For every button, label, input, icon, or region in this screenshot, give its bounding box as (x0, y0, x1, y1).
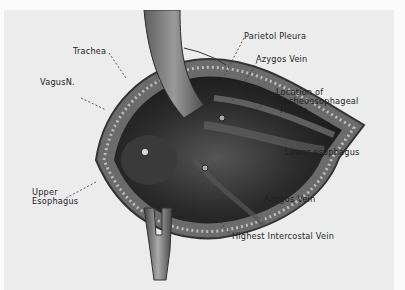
label-parietal-pleura: Parietol Pleura (244, 32, 306, 41)
label-upper-esophagus-2: Esophagus (32, 197, 78, 206)
label-lower-esophagus: Lower esophagus (285, 148, 360, 157)
label-azygos-vein-lower: Azygos Vein (264, 195, 315, 204)
label-azygos-vein-upper: Azygos Vein (256, 55, 307, 64)
label-highest-intercostal-vein: Highest Intercostal Vein (232, 232, 334, 241)
label-trachea: Trachea (73, 47, 106, 56)
label-fistula-location-3: Fistula (280, 106, 308, 115)
illustration-plate: Trachea VagusN. Parietol Pleura Azygos V… (4, 10, 394, 290)
label-vagus-nerve: VagusN. (40, 78, 75, 87)
